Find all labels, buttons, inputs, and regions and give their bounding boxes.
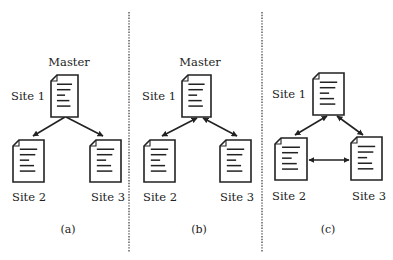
bidirectional-arrow <box>295 116 327 135</box>
site-label: Site 3 <box>220 190 254 204</box>
site-node: Site 3 <box>351 137 386 203</box>
site-node: Site 2 <box>12 140 46 204</box>
site-node: Site 2 <box>143 140 177 204</box>
bidirectional-arrow <box>337 116 363 135</box>
bidirectional-arrow <box>203 118 237 136</box>
site-node: Site 1 <box>11 75 78 117</box>
site-node: Site 3 <box>90 140 125 204</box>
document-icon <box>313 73 344 115</box>
arrow <box>66 117 103 136</box>
master-label: Master <box>48 55 90 69</box>
panel-b: Site 1Site 2Site 3Master(b) <box>142 55 254 236</box>
arrow <box>33 117 65 136</box>
panels: Site 1Site 2Site 3Master(a)Site 1Site 2S… <box>11 55 386 236</box>
panel-c: Site 1Site 2Site 3(c) <box>272 73 386 236</box>
panel-caption: (c) <box>321 223 336 236</box>
site-node: Site 1 <box>142 75 211 117</box>
panel-caption: (a) <box>60 223 75 236</box>
document-icon <box>90 140 121 182</box>
site-label: Site 2 <box>12 190 46 204</box>
document-icon <box>182 75 211 117</box>
site-label: Site 1 <box>11 89 45 103</box>
site-label: Site 1 <box>272 87 306 101</box>
site-node: Site 2 <box>272 138 307 203</box>
site-label: Site 1 <box>142 89 176 103</box>
document-icon <box>275 138 307 180</box>
panel-caption: (b) <box>191 223 207 236</box>
replication-diagram: Site 1Site 2Site 3Master(a)Site 1Site 2S… <box>0 0 393 260</box>
master-label: Master <box>179 55 221 69</box>
panel-dividers <box>129 12 262 252</box>
document-icon <box>13 140 44 182</box>
document-icon <box>351 137 382 180</box>
document-icon <box>144 140 175 182</box>
site-label: Site 3 <box>91 190 125 204</box>
panel-a: Site 1Site 2Site 3Master(a) <box>11 55 125 236</box>
site-label: Site 3 <box>352 189 386 203</box>
site-node: Site 3 <box>220 140 254 204</box>
bidirectional-arrow <box>162 118 197 136</box>
document-icon <box>51 75 78 117</box>
site-label: Site 2 <box>143 190 177 204</box>
document-icon <box>220 140 251 182</box>
site-node: Site 1 <box>272 73 344 115</box>
site-label: Site 2 <box>272 189 306 203</box>
